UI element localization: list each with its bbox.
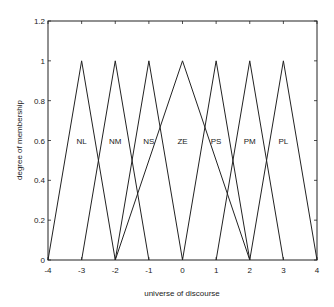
x-tick-label: -2	[112, 266, 120, 275]
x-tick-label: -3	[78, 266, 86, 275]
x-tick-label: 1	[214, 266, 219, 275]
x-tick-label: -4	[44, 266, 52, 275]
membership-nl	[48, 61, 115, 260]
membership-nm	[82, 61, 149, 260]
x-tick-label: 2	[248, 266, 253, 275]
membership-pl	[250, 61, 317, 260]
label-nl: NL	[77, 137, 88, 146]
x-axis-title: universe of discourse	[144, 289, 220, 298]
label-pm: PM	[244, 137, 256, 146]
x-tick-label: -1	[145, 266, 153, 275]
x-tick-label: 4	[315, 266, 320, 275]
y-axis-title: degree of membership	[15, 99, 24, 180]
y-tick-label: 0.4	[34, 176, 46, 185]
label-ps: PS	[211, 137, 222, 146]
membership-series	[48, 61, 317, 260]
membership-ze	[115, 61, 250, 260]
y-tick-label: 0.8	[34, 97, 46, 106]
label-pl: PL	[278, 137, 288, 146]
y-tick-label: 1.2	[34, 17, 46, 26]
x-tick-label: 3	[281, 266, 286, 275]
axis-ticks: -4-3-2-10123400.20.40.60.811.2	[34, 17, 320, 275]
set-labels: NLNMNSZEPSPMPL	[77, 137, 289, 146]
label-ns: NS	[143, 137, 154, 146]
x-tick-label: 0	[180, 266, 185, 275]
label-ze: ZE	[177, 137, 187, 146]
y-tick-label: 0.2	[34, 216, 46, 225]
membership-pm	[216, 61, 283, 260]
membership-function-chart: -4-3-2-10123400.20.40.60.811.2 NLNMNSZEP…	[0, 0, 334, 307]
label-nm: NM	[109, 137, 122, 146]
y-tick-label: 0	[41, 256, 46, 265]
y-tick-label: 1	[41, 57, 46, 66]
y-tick-label: 0.6	[34, 137, 46, 146]
